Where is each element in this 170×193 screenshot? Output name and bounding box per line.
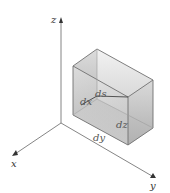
dz-label: dz xyxy=(116,119,128,130)
y-axis-label: y xyxy=(149,180,156,191)
coordinate-diagram: z x y dx ds dz dy xyxy=(0,0,170,193)
z-axis-label: z xyxy=(50,14,57,25)
x-axis xyxy=(15,123,61,154)
dy-label: dy xyxy=(93,132,105,143)
dx-label: dx xyxy=(80,96,92,107)
x-axis-label: x xyxy=(11,158,17,169)
z-axis-arrow-icon xyxy=(59,17,63,23)
x-axis-arrow-icon xyxy=(12,150,18,156)
ds-label: ds xyxy=(95,88,107,99)
